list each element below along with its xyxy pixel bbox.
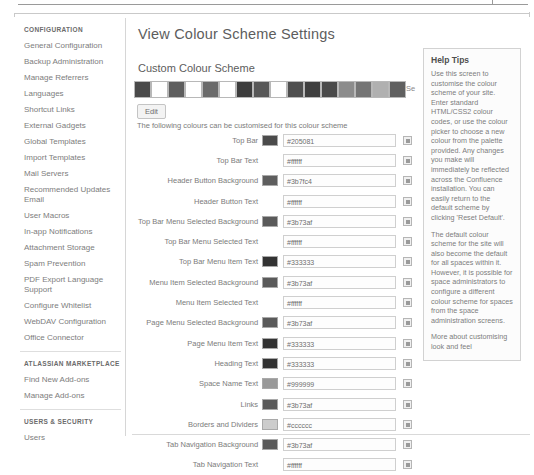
sidebar-item-in-app-notifications[interactable]: In-app Notifications <box>14 224 125 240</box>
window-secondary-rule <box>14 13 530 14</box>
colour-picker-icon[interactable] <box>403 197 412 206</box>
table-row: Top Bar Menu Selected Text#ffffff <box>137 231 418 251</box>
colour-value-cell: #ffffff <box>279 292 397 312</box>
colour-picker-icon[interactable] <box>403 278 412 287</box>
table-row: Tab Navigation Text#ffffff <box>137 455 418 475</box>
colour-picker-icon[interactable] <box>403 298 412 307</box>
sidebar-item-user-macros[interactable]: User Macros <box>14 208 125 224</box>
colour-value-cell: #999999 <box>279 374 397 394</box>
colour-value-input[interactable]: #3b73af <box>283 316 396 329</box>
colour-swatch <box>262 135 278 146</box>
colour-picker-cell <box>397 313 418 333</box>
edit-button[interactable]: Edit <box>137 104 166 119</box>
colour-value-input[interactable]: #333333 <box>283 255 396 268</box>
sidebar-item-pdf-export-language-support[interactable]: PDF Export Language Support <box>14 272 125 298</box>
colour-value-input[interactable]: #ffffff <box>283 458 396 471</box>
colour-value-input[interactable]: #ffffff <box>283 296 396 309</box>
sidebar-item-global-templates[interactable]: Global Templates <box>14 134 125 150</box>
colour-value-input[interactable]: #ffffff <box>283 195 396 208</box>
sidebar-item-webdav-configuration[interactable]: WebDAV Configuration <box>14 314 125 330</box>
colour-value-input[interactable]: #999999 <box>283 377 396 390</box>
colour-value-cell: #3b73af <box>279 394 397 414</box>
sidebar-item-manage-add-ons[interactable]: Manage Add-ons <box>14 388 125 404</box>
colour-picker-icon[interactable] <box>403 257 412 266</box>
colour-picker-icon[interactable] <box>403 318 412 327</box>
sidebar-item-languages[interactable]: Languages <box>14 86 125 102</box>
colour-picker-icon[interactable] <box>403 156 412 165</box>
colour-picker-icon[interactable] <box>403 420 412 429</box>
help-tips-paragraph: The default colour scheme for the site w… <box>431 230 513 326</box>
colour-swatch-cell <box>262 130 279 150</box>
colour-picker-icon[interactable] <box>403 217 412 226</box>
colour-picker-icon[interactable] <box>403 359 412 368</box>
colour-swatch-cell <box>262 434 279 454</box>
sidebar-item-spam-prevention[interactable]: Spam Prevention <box>14 256 125 272</box>
colour-value-input[interactable]: #205081 <box>283 134 396 147</box>
colour-value-input[interactable]: #3b73af <box>283 398 396 411</box>
colour-swatch-cell <box>262 150 279 170</box>
colour-value-input[interactable]: #3b73af <box>283 215 396 228</box>
sidebar-section-heading: CONFIGURATION <box>14 18 125 38</box>
colour-value-input[interactable]: #333333 <box>283 357 396 370</box>
colour-value-input[interactable]: #ffffff <box>283 235 396 248</box>
colour-row-label: Links <box>137 394 262 414</box>
colour-row-label: Page Menu Item Text <box>137 333 262 353</box>
colour-swatch <box>262 338 278 349</box>
colour-swatch-cell <box>262 231 279 251</box>
colour-value-input[interactable]: #3b73af <box>283 276 396 289</box>
colour-picker-cell <box>397 394 418 414</box>
sidebar-item-import-templates[interactable]: Import Templates <box>14 150 125 166</box>
table-row: Menu Item Selected Text#ffffff <box>137 292 418 312</box>
colour-swatch-cell <box>262 394 279 414</box>
colour-value-input[interactable]: #3b7fc4 <box>283 174 396 187</box>
colour-value-cell: #333333 <box>279 252 397 272</box>
colour-picker-icon[interactable] <box>403 440 412 449</box>
colour-picker-icon[interactable] <box>403 460 412 469</box>
colour-picker-icon[interactable] <box>403 136 412 145</box>
colour-value-cell: #ffffff <box>279 455 397 475</box>
colour-picker-icon[interactable] <box>403 176 412 185</box>
table-row: Heading Text#333333 <box>137 353 418 373</box>
colour-value-input[interactable]: #ffffff <box>283 154 396 167</box>
colour-value-input[interactable]: #3b73af <box>283 438 396 451</box>
sidebar-item-mail-servers[interactable]: Mail Servers <box>14 166 125 182</box>
colour-picker-cell <box>397 191 418 211</box>
colour-picker-cell <box>397 252 418 272</box>
colour-picker-cell <box>397 333 418 353</box>
colour-value-input[interactable]: #cccccc <box>283 418 396 431</box>
colour-picker-icon[interactable] <box>403 339 412 348</box>
preview-swatch <box>287 81 304 98</box>
sidebar-item-general-configuration[interactable]: General Configuration <box>14 38 125 54</box>
colour-picker-icon[interactable] <box>403 400 412 409</box>
table-description: The following colours can be customised … <box>137 121 348 130</box>
sidebar-item-backup-administration[interactable]: Backup Administration <box>14 54 125 70</box>
admin-sidebar[interactable]: CONFIGURATIONGeneral ConfigurationBackup… <box>14 18 126 436</box>
sidebar-item-office-connector[interactable]: Office Connector <box>14 330 125 346</box>
colour-swatch-cell <box>262 333 279 353</box>
colour-swatch-cell <box>262 292 279 312</box>
colour-value-cell: #3b73af <box>279 313 397 333</box>
colour-row-label: Header Button Text <box>137 191 262 211</box>
sidebar-item-configure-whitelist[interactable]: Configure Whitelist <box>14 298 125 314</box>
sidebar-item-shortcut-links[interactable]: Shortcut Links <box>14 102 125 118</box>
sidebar-item-external-gadgets[interactable]: External Gadgets <box>14 118 125 134</box>
colour-swatch-cell <box>262 455 279 475</box>
colour-settings-table: Top Bar#205081Top Bar Text#ffffffHeader … <box>137 130 418 475</box>
colour-value-cell: #205081 <box>279 130 397 150</box>
window-secondary-rule-right <box>529 12 530 17</box>
colour-swatch <box>262 216 278 227</box>
colour-picker-icon[interactable] <box>403 237 412 246</box>
colour-value-input[interactable]: #333333 <box>283 337 396 350</box>
colour-swatch-cell <box>262 211 279 231</box>
sidebar-item-find-new-add-ons[interactable]: Find New Add-ons <box>14 372 125 388</box>
colour-swatch <box>262 399 278 410</box>
preview-swatch <box>185 81 202 98</box>
help-tips-title: Help Tips <box>431 55 513 65</box>
table-row: Top Bar Menu Selected Background#3b73af <box>137 211 418 231</box>
colour-picker-icon[interactable] <box>403 379 412 388</box>
help-tips-link[interactable]: More about customising look and feel <box>431 332 513 351</box>
sidebar-item-manage-referrers[interactable]: Manage Referrers <box>14 70 125 86</box>
sidebar-item-recommended-updates-email[interactable]: Recommended Updates Email <box>14 182 125 208</box>
sidebar-item-users[interactable]: Users <box>14 430 125 446</box>
sidebar-item-attachment-storage[interactable]: Attachment Storage <box>14 240 125 256</box>
